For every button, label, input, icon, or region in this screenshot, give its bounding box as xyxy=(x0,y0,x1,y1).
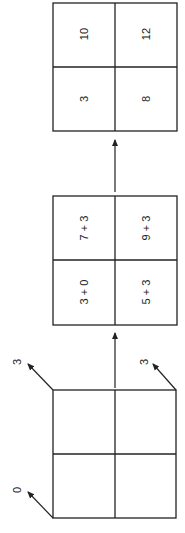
sum-cell-r0c1: 9 + 3 xyxy=(140,216,152,241)
sum-grid: 7 + 3 9 + 3 3 + 0 5 + 3 xyxy=(53,196,177,325)
result-cell-r1c0: 3 xyxy=(78,96,90,102)
sum-cell-r1c1: 5 + 3 xyxy=(140,280,152,305)
corner-label-top-right: 3 xyxy=(138,359,150,365)
result-cell-r0c1: 12 xyxy=(140,28,152,40)
input-grid: 3 3 0 xyxy=(11,359,176,518)
sum-cell-r1c0: 3 + 0 xyxy=(78,280,90,305)
corner-label-bottom-left: 0 xyxy=(11,487,23,493)
result-grid: 10 12 3 8 xyxy=(53,3,177,131)
result-cell-r1c1: 8 xyxy=(140,96,152,102)
corner-arrow-top-left xyxy=(28,364,53,390)
result-cell-r0c0: 10 xyxy=(78,28,90,40)
diagram-canvas: 10 12 3 8 7 + 3 9 + 3 3 + 0 5 + 3 3 3 0 xyxy=(0,0,185,533)
corner-label-top-left: 3 xyxy=(11,359,23,365)
sum-cell-r0c0: 7 + 3 xyxy=(78,216,90,241)
corner-arrow-top-right xyxy=(153,364,176,390)
corner-arrow-bottom-left xyxy=(28,492,53,518)
